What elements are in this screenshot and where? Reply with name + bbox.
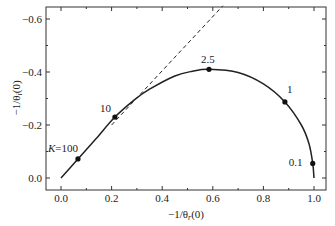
data-point-marker — [310, 161, 315, 166]
data-point-marker — [112, 114, 117, 119]
y-tick-label: −0.4 — [22, 66, 42, 78]
data-markers: K=100102.510.1 — [47, 53, 315, 168]
data-point-marker — [75, 156, 80, 161]
x-tick-label: 1.0 — [307, 192, 321, 204]
data-point-marker — [282, 99, 287, 104]
x-tick-label: 0.6 — [206, 192, 220, 204]
data-point-label: 0.1 — [289, 156, 303, 168]
data-point-label: K=100 — [47, 142, 79, 154]
dashed-asymptote — [112, 6, 223, 125]
data-point-label: 10 — [100, 102, 112, 114]
x-axis-ticks: 0.00.20.40.60.81.0 — [54, 7, 321, 204]
plot-frame — [46, 7, 326, 190]
y-axis-ticks: 0.0−0.2−0.4−0.6 — [22, 13, 326, 184]
data-point-label: 2.5 — [201, 53, 215, 65]
x-tick-label: 0.4 — [155, 192, 169, 204]
y-tick-label: −0.6 — [22, 13, 42, 25]
x-tick-label: 0.2 — [105, 192, 119, 204]
y-tick-label: 0.0 — [28, 172, 42, 184]
solid-curve — [61, 69, 314, 178]
data-point-label: 1 — [287, 83, 293, 95]
y-axis-label: −1/θi(0) — [10, 80, 24, 115]
data-series — [61, 6, 314, 178]
x-axis-label: −1/θr(0) — [168, 208, 204, 222]
x-tick-label: 0.0 — [54, 192, 68, 204]
y-tick-label: −0.2 — [22, 119, 42, 131]
x-tick-label: 0.8 — [257, 192, 271, 204]
chart: 0.00.20.40.60.81.0 0.0−0.2−0.4−0.6 K=100… — [0, 0, 335, 226]
data-point-marker — [206, 67, 211, 72]
